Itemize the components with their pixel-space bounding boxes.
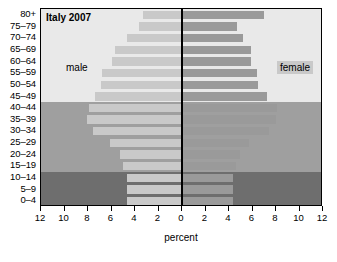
x-axis-tick-label: 0 <box>178 212 183 223</box>
y-axis-tick-label: 55–59 <box>10 66 36 78</box>
x-axis-tick-label: 4 <box>225 212 230 223</box>
x-axis-tick-mark <box>275 206 276 211</box>
bar-female-60-64 <box>182 57 251 65</box>
x-axis-tick-mark <box>205 206 206 211</box>
bar-male-55-59 <box>102 69 182 77</box>
y-axis-tick-label: 25–29 <box>10 136 36 148</box>
bar-male-80+ <box>143 11 182 19</box>
bar-male-35-39 <box>87 115 182 123</box>
y-axis-tick-label: 5–9 <box>20 183 36 195</box>
y-axis-tick-label: 50–54 <box>10 78 36 90</box>
x-axis-tick-label: 12 <box>317 212 328 223</box>
bar-female-0-4 <box>182 197 233 205</box>
bar-male-65-69 <box>115 46 182 54</box>
y-axis-tick-label: 35–39 <box>10 113 36 125</box>
x-axis-tick-mark <box>252 206 253 211</box>
x-axis-title: percent <box>40 232 322 243</box>
bar-female-55-59 <box>182 69 257 77</box>
x-axis-tick-mark <box>40 206 41 211</box>
x-axis-tick-mark <box>87 206 88 211</box>
y-axis-tick-label: 30–34 <box>10 124 36 136</box>
male-series-label: male <box>63 61 91 74</box>
x-axis-tick-label: 8 <box>84 212 89 223</box>
x-axis-tick-label: 2 <box>202 212 207 223</box>
population-pyramid-figure: 0–45–910–1415–1920–2425–2930–3435–3940–4… <box>0 0 337 262</box>
bar-female-80+ <box>182 11 264 19</box>
bar-male-70-74 <box>127 34 182 42</box>
x-axis-tick-label: 10 <box>58 212 69 223</box>
y-axis-tick-label: 60–64 <box>10 55 36 67</box>
bar-male-30-34 <box>93 127 182 135</box>
bar-female-5-9 <box>182 185 233 193</box>
x-axis-tick-mark <box>299 206 300 211</box>
bar-female-25-29 <box>182 139 249 147</box>
bar-male-0-4 <box>127 197 182 205</box>
y-axis-tick-label: 75–79 <box>10 20 36 32</box>
y-axis-tick-label: 20–24 <box>10 148 36 160</box>
bar-male-25-29 <box>110 139 182 147</box>
bar-male-45-49 <box>95 92 182 100</box>
bar-female-35-39 <box>182 115 276 123</box>
y-axis-tick-label: 80+ <box>20 8 36 20</box>
x-axis-tick-mark <box>64 206 65 211</box>
bar-male-75-79 <box>139 22 182 30</box>
bar-female-45-49 <box>182 92 267 100</box>
x-axis-tick-label: 8 <box>272 212 277 223</box>
bar-female-50-54 <box>182 81 258 89</box>
bar-male-40-44 <box>89 104 182 112</box>
x-axis-tick-mark <box>111 206 112 211</box>
zero-axis-line <box>181 9 182 205</box>
x-axis-tick-mark <box>181 206 182 211</box>
x-axis-tick-label: 4 <box>131 212 136 223</box>
bar-male-10-14 <box>127 174 182 182</box>
bar-female-30-34 <box>182 127 269 135</box>
bar-male-15-19 <box>123 162 182 170</box>
y-axis-tick-label: 45–49 <box>10 90 36 102</box>
bar-male-50-54 <box>101 81 182 89</box>
x-axis-tick-label: 2 <box>155 212 160 223</box>
y-axis-tick-label: 40–44 <box>10 101 36 113</box>
plot-area: male female Italy 2007 <box>40 8 322 206</box>
bar-female-75-79 <box>182 22 237 30</box>
bar-female-15-19 <box>182 162 236 170</box>
y-axis-tick-label: 10–14 <box>10 171 36 183</box>
y-axis-category-labels: 0–45–910–1415–1920–2425–2930–3435–3940–4… <box>0 8 38 206</box>
bar-male-60-64 <box>112 57 183 65</box>
x-axis-tick-mark <box>228 206 229 211</box>
x-axis-tick-mark <box>134 206 135 211</box>
y-axis-tick-label: 70–74 <box>10 31 36 43</box>
bar-male-20-24 <box>120 150 182 158</box>
y-axis-tick-label: 65–69 <box>10 43 36 55</box>
x-axis-tick-label: 6 <box>249 212 254 223</box>
female-series-label: female <box>277 61 313 74</box>
bar-female-40-44 <box>182 104 277 112</box>
bar-female-65-69 <box>182 46 251 54</box>
chart-title: Italy 2007 <box>46 12 91 23</box>
x-axis-tick-label: 10 <box>293 212 304 223</box>
bar-male-5-9 <box>127 185 182 193</box>
y-axis-tick-label: 15–19 <box>10 159 36 171</box>
bar-female-70-74 <box>182 34 243 42</box>
bar-female-20-24 <box>182 150 240 158</box>
x-axis-tick-mark <box>322 206 323 211</box>
y-axis-tick-label: 0–4 <box>20 194 36 206</box>
bar-female-10-14 <box>182 174 233 182</box>
x-axis-tick-label: 6 <box>108 212 113 223</box>
x-axis-tick-mark <box>158 206 159 211</box>
x-axis-tick-label: 12 <box>35 212 46 223</box>
